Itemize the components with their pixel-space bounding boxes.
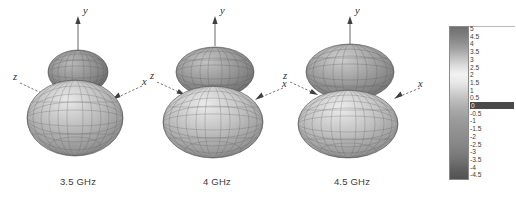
y-axis-arrowhead [347,16,352,24]
radiation-pattern-3.5ghz: y z x [4,0,152,175]
colorbar-tick: -1.5 [470,125,481,132]
colorbar-gradient-strip [449,26,469,180]
colorbar-tick: -2 [470,133,476,140]
colorbar-tick: 0.5 [470,94,479,101]
radiation-pattern-4ghz: y z x [143,0,291,175]
lower-lobe [27,80,123,156]
colorbar[interactable]: 54.543.532.521.510.50-0.5-1-1.5-2-2.5-3-… [448,26,516,182]
z-axis-line [157,82,181,93]
colorbar-tick: 0 [470,102,514,109]
y-axis-label: y [354,5,360,16]
colorbar-tick: 3 [470,56,474,63]
y-axis-label: y [219,5,225,16]
y-axis-arrowhead [75,16,80,24]
lower-lobe [298,90,398,159]
colorbar-tick: 4.5 [470,33,479,40]
plot-caption: 4 GHz [143,176,291,187]
x-axis-arrowhead [394,92,403,99]
x-axis-label: x [417,78,423,89]
plot-panel-4.5ghz: y z x [278,0,426,206]
plot-panel-3.5ghz: y z x [4,0,152,206]
plot-caption: 4.5 GHz [278,176,426,187]
colorbar-tick: 2 [470,71,474,78]
x-axis-arrowhead [255,93,264,100]
colorbar-top-rule [469,26,515,27]
y-axis-arrowhead [212,16,217,24]
colorbar-tick: -3 [470,148,476,155]
plot-panel-4ghz: y z x [143,0,291,206]
colorbar-tick: -4.5 [470,171,481,178]
colorbar-tick: 1.5 [470,79,479,86]
plot-caption: 3.5 GHz [4,176,152,187]
colorbar-tick: 1 [470,87,474,94]
colorbar-tick: 4 [470,40,474,47]
lower-lobe [163,86,263,159]
colorbar-tick: -4 [470,164,476,171]
colorbar-tick: 5 [470,25,474,32]
colorbar-tick: -1 [470,117,476,124]
z-axis-label: z [12,71,17,82]
radiation-pattern-figure: y z x [0,0,516,206]
y-axis-label: y [82,5,88,16]
z-axis-label: z [149,70,154,81]
colorbar-tick: -0.5 [470,110,481,117]
colorbar-tick: 3.5 [470,48,479,55]
colorbar-tick: -3.5 [470,156,481,163]
radiation-pattern-4.5ghz: y z x [278,0,426,175]
colorbar-tick: 2.5 [470,64,479,71]
z-axis-label: z [282,70,287,81]
colorbar-tick: -2.5 [470,141,481,148]
